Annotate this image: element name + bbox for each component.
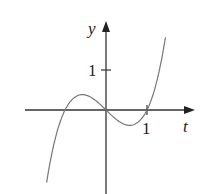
y-tick-label: 1 (88, 61, 97, 80)
t-tick-label: 1 (142, 119, 151, 138)
y-axis-label: y (86, 19, 96, 38)
y-axis-arrow-icon (102, 21, 110, 32)
cubic-function-graph: y 1 1 t (0, 0, 202, 194)
t-axis-arrow-icon (184, 106, 195, 114)
t-axis-label: t (183, 117, 189, 136)
